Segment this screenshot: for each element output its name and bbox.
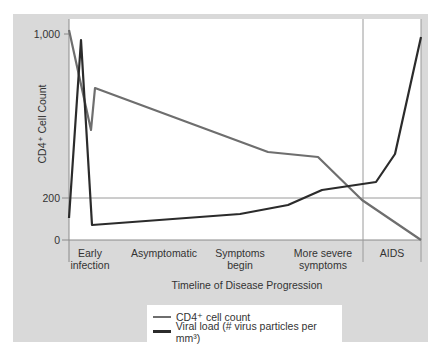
tick-label-200: 200 bbox=[20, 192, 60, 204]
category-early-infection: Early infection bbox=[70, 247, 110, 271]
tick-label-0: 0 bbox=[20, 234, 60, 246]
chart-plot bbox=[0, 0, 439, 353]
plot-area bbox=[69, 19, 421, 240]
category-label-line: infection bbox=[70, 259, 110, 271]
category-label-line: AIDS bbox=[363, 247, 421, 259]
legend: CD4⁺ cell count Viral load (# virus part… bbox=[147, 305, 342, 342]
category-label-line: Asymptomatic bbox=[124, 247, 204, 259]
category-label-line: Symptoms bbox=[205, 247, 275, 259]
category-label-line: Early bbox=[70, 247, 110, 259]
y-axis-label: CD4⁺ Cell Count bbox=[36, 54, 48, 194]
legend-label-viral-load: Viral load (# virus particles per mm³) bbox=[176, 320, 342, 344]
category-label-line: More severe bbox=[287, 247, 359, 259]
legend-item-viral-load: Viral load (# virus particles per mm³) bbox=[153, 325, 342, 338]
category-asymptomatic: Asymptomatic bbox=[124, 247, 204, 259]
category-label-line: begin bbox=[205, 259, 275, 271]
category-label-line: symptoms bbox=[287, 259, 359, 271]
legend-swatch-cd4 bbox=[153, 316, 171, 318]
legend-swatch-viral-load bbox=[153, 330, 171, 333]
tick-label-1000: 1,000 bbox=[20, 28, 60, 40]
category-more-severe-symptoms: More severe symptoms bbox=[287, 247, 359, 271]
x-axis-label: Timeline of Disease Progression bbox=[147, 279, 347, 291]
category-symptoms-begin: Symptoms begin bbox=[205, 247, 275, 271]
category-aids: AIDS bbox=[363, 247, 421, 259]
